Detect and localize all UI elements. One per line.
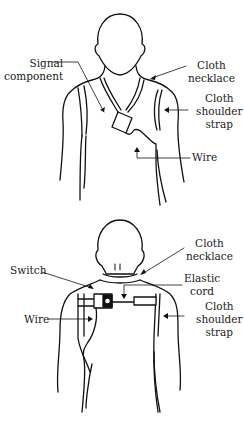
right-clip xyxy=(134,297,156,305)
wire-leader xyxy=(137,150,190,158)
right-strap xyxy=(154,90,162,130)
label-wire-back: Wire xyxy=(24,313,49,326)
necklace-left-band xyxy=(100,78,121,112)
strap-bar-left xyxy=(78,299,94,306)
figure-back-view: Cloth necklace Switch Elastic cord Wire … xyxy=(0,212,244,425)
head-outline xyxy=(95,14,145,75)
label-cloth-necklace-back: Cloth necklace xyxy=(186,237,233,263)
figure-front-view: Signal component Cloth necklace Cloth sh… xyxy=(0,0,244,212)
switch-leader xyxy=(42,272,92,288)
elastic-leader xyxy=(124,285,182,296)
necklace-right-band xyxy=(126,78,144,112)
necklace-leader-back xyxy=(142,248,184,274)
necklace-collar xyxy=(100,274,140,283)
label-signal-component: Signal component xyxy=(4,57,63,83)
hair-marks xyxy=(115,264,120,270)
necklace-leader xyxy=(152,66,186,78)
left-shoulder-outline xyxy=(60,66,105,180)
left-strap-lower xyxy=(80,136,86,200)
wire-top xyxy=(126,129,160,205)
signal-component-box xyxy=(112,112,132,133)
label-elastic-cord: Elastic cord xyxy=(184,272,220,298)
label-switch: Switch xyxy=(10,264,46,277)
label-cloth-necklace: Cloth necklace xyxy=(188,59,235,85)
label-cloth-shoulder-strap: Cloth shoulder strap xyxy=(196,92,243,131)
label-wire: Wire xyxy=(192,151,217,164)
left-strap xyxy=(78,86,87,136)
label-cloth-shoulder-strap-back: Cloth shoulder strap xyxy=(196,300,243,339)
